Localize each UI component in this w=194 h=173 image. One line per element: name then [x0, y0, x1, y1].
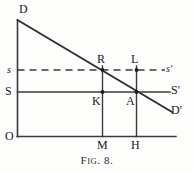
label-l: L	[131, 53, 139, 65]
caption-text-ig: IG	[87, 156, 97, 166]
point-marker-k	[101, 90, 105, 94]
label-s-small: s	[7, 64, 11, 76]
label-d-prime: D'	[171, 104, 182, 116]
point-marker-l	[135, 68, 139, 72]
label-h: H	[131, 139, 140, 151]
figure-container: D D' S S' s s' R L K A M H O FIG. 8.	[0, 0, 194, 173]
label-a: A	[126, 95, 135, 107]
label-d: D	[19, 3, 28, 15]
label-s: S	[5, 85, 12, 97]
label-o: O	[5, 130, 14, 142]
label-m: M	[97, 139, 108, 151]
point-marker-r	[101, 68, 105, 72]
label-s-prime: S'	[171, 84, 180, 96]
caption-text-number: . 8.	[97, 154, 113, 166]
label-k: K	[92, 95, 101, 107]
point-marker-a	[135, 90, 139, 94]
label-r: R	[97, 53, 105, 65]
label-s-small-prime: s'	[166, 63, 172, 75]
figure-caption: FIG. 8.	[0, 154, 194, 166]
